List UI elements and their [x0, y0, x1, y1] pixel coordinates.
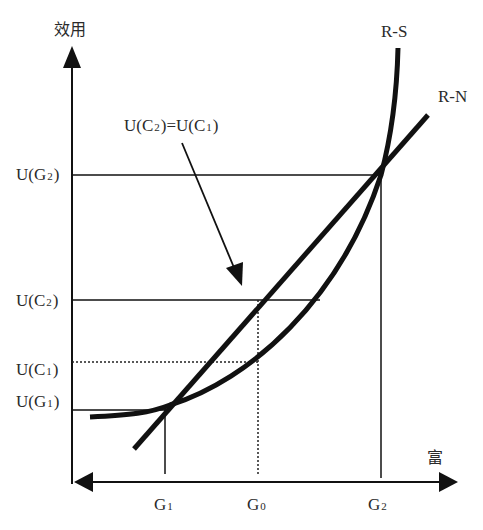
y-axis-label: 效用 [54, 22, 86, 38]
annotation-arrow-icon [226, 262, 243, 286]
x-axis-right-arrow-icon [439, 472, 458, 492]
x-tick-G1: G1 [154, 496, 174, 513]
x-tick-G2: G2 [368, 496, 388, 513]
y-tick-UG2: U(G2) [16, 166, 59, 183]
y-tick-UC1: U(C1) [16, 361, 58, 378]
annotation-equal-utility: U(C2)=U(C1) [124, 117, 218, 134]
y-axis-arrow-icon [63, 46, 81, 68]
curve-label-R-S: R-S [381, 23, 407, 40]
annotation-arrow-line [182, 143, 235, 270]
x-tick-G0: G0 [247, 496, 267, 513]
diagram-canvas [0, 0, 483, 530]
curve-label-R-N: R-N [438, 88, 467, 105]
utility-risk-diagram: 效用 富 R-S R-N U(G2) U(C2) U(C1) U(G1) G1 … [0, 0, 483, 530]
x-axis-left-arrow-icon [74, 472, 93, 492]
y-tick-UC2: U(C2) [16, 292, 58, 309]
y-tick-UG1: U(G1) [16, 393, 59, 410]
x-axis-label: 富 [427, 450, 443, 466]
